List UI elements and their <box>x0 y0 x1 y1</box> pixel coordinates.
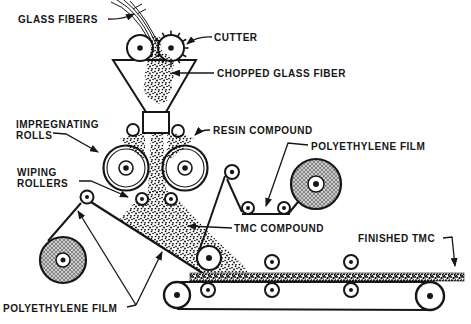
tmc-process-diagram: GLASS FIBERS CUTTER CHOPPED GLASS FIBER … <box>0 0 471 324</box>
belt-support-roller-1 <box>201 283 215 297</box>
label-resin-compound: RESIN COMPOUND <box>213 125 313 136</box>
label-polyethylene-film-bottom: POLYETHYLENE FILM <box>3 303 117 314</box>
label-impregnating-rolls-line1: IMPREGNATING <box>16 119 99 130</box>
label-wiping-rollers-line1: WIPING <box>17 167 57 178</box>
film-guide-roller-right <box>278 202 290 214</box>
belt-support-roller-3 <box>344 283 358 297</box>
leader-polyethylene-film-bottom-b <box>136 252 162 305</box>
wiping-roller-right <box>165 193 177 205</box>
label-chopped-glass-fiber: CHOPPED GLASS FIBER <box>217 68 346 79</box>
label-finished-tmc: FINISHED TMC <box>358 233 435 244</box>
nip-stream <box>148 133 166 193</box>
belt-support-roller-2 <box>265 283 279 297</box>
conveyor-roller-left-end <box>164 282 190 308</box>
film-guide-roller-mid <box>242 202 254 214</box>
film-roll-right <box>291 159 341 209</box>
leader-finished-tmc <box>443 237 455 266</box>
finished-tmc-strip <box>190 273 464 281</box>
laminating-roller <box>197 246 221 270</box>
label-cutter: CUTTER <box>214 32 258 43</box>
label-impregnating-rolls-line2: ROLLS <box>16 130 52 141</box>
pinch-roller-top-2 <box>344 255 358 269</box>
leader-impregnating-rolls <box>53 133 98 152</box>
film-guide-roller-top <box>225 165 239 179</box>
label-wiping-rollers-line2: ROLLERS <box>17 178 68 189</box>
conveyor-roller-right-end <box>416 282 444 310</box>
label-polyethylene-film-top: POLYETHYLENE FILM <box>311 141 425 152</box>
leader-polyethylene-film-bottom-tick <box>127 305 136 307</box>
film-roll-left <box>40 237 86 283</box>
leader-resin-compound <box>195 130 210 135</box>
wiping-roller-left <box>136 193 148 205</box>
leader-cutter <box>187 37 212 44</box>
carrier-film-feed <box>48 203 81 241</box>
label-glass-fibers: GLASS FIBERS <box>18 14 98 25</box>
label-tmc-compound: TMC COMPOUND <box>234 223 324 234</box>
pinch-roller-top-1 <box>265 255 279 269</box>
feed-box <box>143 112 169 133</box>
